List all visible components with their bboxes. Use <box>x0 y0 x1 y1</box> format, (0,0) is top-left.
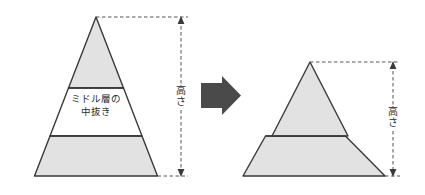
right-height-label: 高 さ <box>387 105 399 130</box>
right-height-label-char2: さ <box>387 118 399 129</box>
middle-layer-caption-line2: 中抜き <box>56 106 136 119</box>
middle-layer-caption: ミドル層の 中抜き <box>56 93 136 119</box>
left-height-label: 高 さ <box>175 84 187 109</box>
diagram-root: ミドル層の 中抜き 高 さ 高 さ <box>0 0 425 195</box>
right-measure-arrowhead-bottom <box>390 169 397 177</box>
left-height-label-char2: さ <box>175 97 187 108</box>
right-pyramid-group <box>243 62 385 176</box>
left-pyramid-bottom-segment <box>35 136 158 176</box>
transform-arrow <box>201 76 241 115</box>
transform-arrow-group <box>201 76 241 115</box>
left-pyramid-top-segment <box>69 17 124 88</box>
left-height-label-char1: 高 <box>175 86 187 97</box>
right-pyramid-top-segment <box>272 62 348 136</box>
middle-layer-caption-line1: ミドル層の <box>56 93 136 106</box>
right-pyramid-bottom-segment <box>243 136 385 176</box>
right-height-label-char1: 高 <box>387 107 399 118</box>
